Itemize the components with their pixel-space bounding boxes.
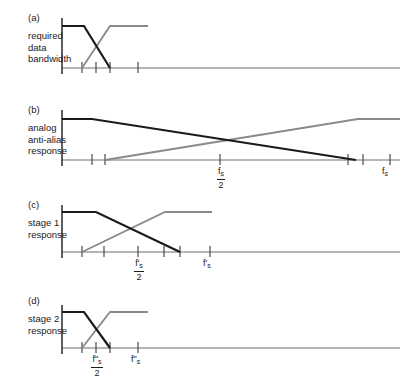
panel-d-label-fsdprime: f"s (131, 354, 153, 367)
panel-d-plot (0, 0, 405, 385)
panel-d-label-fsdprime-over-2: f"s 2 (85, 354, 109, 378)
figure-canvas: (a) required data bandwidth (b) analog a (0, 0, 405, 385)
